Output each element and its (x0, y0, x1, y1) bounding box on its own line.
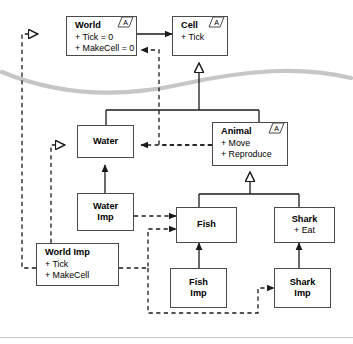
class-node-water-imp[interactable]: Water Imp (77, 193, 134, 231)
abstract-marker-icon-cell: A (208, 16, 225, 28)
class-node-water[interactable]: Water (77, 125, 134, 158)
class-name-water-imp-line1: Water (93, 201, 118, 213)
abstract-marker-icon-world: A (117, 16, 134, 28)
class-node-cell[interactable]: A Cell + Tick (172, 16, 228, 56)
class-node-shark[interactable]: Shark + Eat (274, 207, 335, 243)
class-node-world-imp[interactable]: World Imp + Tick + MakeCell (36, 243, 119, 286)
svg-text:A: A (123, 19, 128, 26)
class-attr-shark-0: + Eat (294, 225, 315, 236)
class-name-shark-imp-line1: Shark (290, 277, 316, 289)
class-node-shark-imp[interactable]: Shark Imp (274, 268, 331, 308)
edge-worldimp-water (51, 145, 65, 243)
edge-animal-world (141, 50, 212, 145)
svg-text:A: A (274, 125, 279, 132)
class-attr-world-imp-1: + MakeCell (37, 270, 118, 281)
uml-class-diagram: A World + Tick = 0 + MakeCell = 0 A Cell… (0, 0, 353, 344)
edge-worldimp-world (22, 34, 38, 268)
svg-text:A: A (214, 19, 219, 26)
class-node-animal[interactable]: A Animal + Move + Reproduce (212, 122, 288, 166)
class-name-shark: Shark (292, 214, 318, 226)
class-name-water-imp-line2: Imp (97, 212, 113, 224)
class-node-fish[interactable]: Fish (176, 207, 237, 243)
class-attr-animal-1: + Reproduce (213, 149, 287, 160)
class-node-world[interactable]: A World + Tick = 0 + MakeCell = 0 (66, 16, 137, 56)
class-name-world-imp: World Imp (37, 247, 118, 259)
class-attr-world-imp-0: + Tick (37, 259, 118, 270)
class-name-shark-imp-line2: Imp (294, 288, 310, 300)
edge-worldimp-fish (119, 229, 176, 268)
class-node-fish-imp[interactable]: Fish Imp (170, 268, 227, 308)
abstract-marker-icon-animal: A (268, 122, 285, 134)
class-attr-cell-0: + Tick (173, 32, 227, 43)
footer-divider (0, 337, 353, 338)
class-attr-world-0: + Tick = 0 (67, 32, 136, 43)
class-name-fish-imp-line2: Imp (190, 288, 206, 300)
class-attr-animal-0: + Move (213, 138, 287, 149)
class-name-water: Water (93, 136, 118, 148)
class-name-fish: Fish (197, 219, 216, 231)
class-attr-world-1: + MakeCell = 0 (67, 43, 136, 54)
fold-curve (2, 71, 351, 93)
class-name-fish-imp-line1: Fish (189, 277, 208, 289)
